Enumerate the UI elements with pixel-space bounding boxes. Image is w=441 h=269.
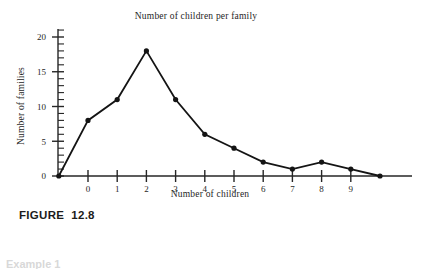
data-point-marker: [115, 97, 120, 102]
x-tick-label: 0: [86, 184, 91, 194]
y-tick-label: 10: [37, 102, 47, 112]
x-tick-label: 7: [290, 184, 295, 194]
x-tick-label: 2: [144, 184, 149, 194]
y-tick-label: 15: [37, 67, 47, 77]
x-tick-label: 4: [203, 184, 208, 194]
y-axis-minor-ticks: [58, 30, 64, 169]
data-point-marker: [231, 146, 236, 151]
x-axis-title: Number of children: [171, 189, 250, 199]
figure-caption: FIGURE 12.8: [19, 209, 95, 221]
chart-background: [0, 0, 441, 200]
y-tick-label: 5: [42, 137, 47, 147]
figure-container: Number of children per family Number of …: [0, 0, 441, 269]
x-tick-label: 3: [173, 184, 178, 194]
y-tick-label: 20: [37, 32, 47, 42]
data-point-marker: [261, 160, 266, 165]
chart-plot-area: Number of children per family Number of …: [0, 0, 441, 200]
data-point-marker: [56, 173, 61, 178]
chart-title: Number of children per family: [135, 11, 257, 21]
x-tick-label: 1: [115, 184, 120, 194]
data-point-marker: [85, 118, 90, 123]
data-point-marker: [202, 132, 207, 137]
page-bottom-text-artifact: Example 1: [6, 258, 126, 269]
x-tick-label: 9: [349, 184, 354, 194]
data-point-marker: [319, 160, 324, 165]
data-point-marker: [290, 166, 295, 171]
data-point-marker: [348, 166, 353, 171]
line-chart: Number of children per family Number of …: [0, 0, 441, 200]
data-point-marker: [173, 97, 178, 102]
data-point-marker: [377, 173, 382, 178]
x-tick-label: 6: [261, 184, 266, 194]
y-tick-label: 0: [42, 171, 47, 181]
y-axis-title: Number of families: [16, 67, 26, 145]
x-tick-label: 5: [232, 184, 237, 194]
data-point-marker: [144, 48, 149, 53]
x-tick-label: 8: [319, 184, 324, 194]
